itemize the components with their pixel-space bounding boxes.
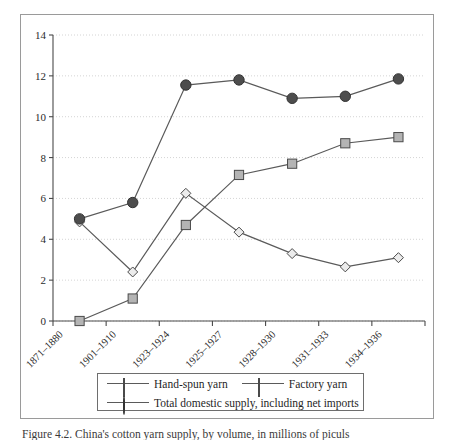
data-point-diamond — [393, 253, 403, 263]
chart-legend: Hand-spun yarn Factory yarn Total domest… — [97, 373, 364, 411]
data-point-diamond — [234, 227, 244, 237]
chart-frame: 024681012141871–18801901–19101923–192419… — [20, 14, 434, 419]
x-tick-label: 1931–1933 — [290, 329, 331, 370]
data-point-square — [75, 316, 84, 325]
y-tick-label: 8 — [41, 152, 47, 164]
legend-label-hand-spun-yarn: Hand-spun yarn — [154, 378, 228, 390]
figure-caption: Figure 4.2. China's cotton yarn supply, … — [22, 428, 442, 440]
data-point-circle — [393, 74, 403, 84]
y-tick-label: 4 — [41, 233, 47, 245]
x-tick-label: 1923–1924 — [130, 328, 172, 370]
y-tick-label: 12 — [35, 70, 46, 82]
data-point-circle — [128, 197, 138, 207]
data-point-square — [128, 294, 137, 303]
y-tick-label: 0 — [41, 315, 47, 327]
data-point-square — [234, 170, 243, 179]
data-point-diamond — [287, 249, 297, 259]
y-tick-label: 2 — [41, 274, 47, 286]
legend-item-total-domestic-supply: Total domestic supply, including net imp… — [107, 397, 359, 409]
diamond-marker-icon — [107, 378, 149, 390]
legend-row-bottom: Total domestic supply, including net imp… — [98, 393, 363, 412]
series-line — [80, 79, 399, 219]
data-point-square — [341, 139, 350, 148]
x-tick-label: 1925–1927 — [183, 329, 224, 370]
y-tick-label: 6 — [41, 192, 47, 204]
y-tick-label: 10 — [35, 111, 47, 123]
data-point-square — [288, 159, 297, 168]
data-point-square — [394, 133, 403, 142]
x-tick-label: 1934–1936 — [343, 329, 384, 370]
legend-item-factory-yarn: Factory yarn — [242, 378, 347, 390]
data-point-circle — [340, 91, 350, 101]
legend-label-total-domestic-supply: Total domestic supply, including net imp… — [154, 397, 359, 409]
legend-item-hand-spun-yarn: Hand-spun yarn — [107, 378, 228, 390]
line-chart: 024681012141871–18801901–19101923–192419… — [21, 15, 433, 418]
data-point-square — [181, 220, 190, 229]
square-marker-icon — [242, 378, 284, 390]
legend-label-factory-yarn: Factory yarn — [289, 378, 347, 390]
data-point-diamond — [181, 188, 191, 198]
x-tick-label: 1901–1910 — [77, 329, 118, 370]
circle-marker-icon — [107, 397, 149, 409]
x-tick-label: 1871–1880 — [24, 329, 65, 370]
data-point-circle — [287, 93, 297, 103]
x-tick-label: 1928–1930 — [236, 329, 277, 370]
data-point-diamond — [340, 262, 350, 272]
data-point-circle — [234, 75, 244, 85]
data-point-circle — [74, 214, 84, 224]
y-tick-label: 14 — [35, 29, 47, 41]
legend-row-top: Hand-spun yarn Factory yarn — [98, 374, 363, 393]
data-point-circle — [181, 80, 191, 90]
